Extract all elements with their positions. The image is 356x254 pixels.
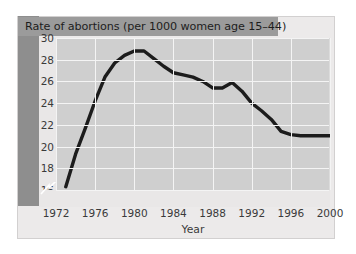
gridline-vertical bbox=[213, 38, 214, 190]
gridline-horizontal bbox=[56, 168, 329, 169]
gridline-horizontal bbox=[56, 81, 329, 82]
gridline-vertical bbox=[330, 38, 331, 190]
gridline-horizontal bbox=[56, 60, 329, 61]
x-tick-label: 2000 bbox=[317, 207, 344, 219]
x-tick-label: 1988 bbox=[199, 207, 226, 219]
gridline-horizontal bbox=[56, 38, 329, 39]
y-tick-label: 26 bbox=[41, 75, 54, 87]
gridline-horizontal bbox=[56, 103, 329, 104]
gridline-horizontal bbox=[56, 125, 329, 126]
x-axis-title: Year bbox=[56, 223, 330, 236]
plot-area bbox=[56, 38, 330, 190]
y-tick-label: 18 bbox=[41, 162, 54, 174]
gridline-horizontal bbox=[56, 190, 329, 191]
x-tick-label: 1992 bbox=[238, 207, 265, 219]
x-tick-label: 1984 bbox=[160, 207, 187, 219]
y-tick-label: 28 bbox=[41, 54, 54, 66]
chart-title: Rate of abortions (per 1000 women age 15… bbox=[18, 20, 286, 33]
gridline-vertical bbox=[134, 38, 135, 190]
x-tick-label: 1980 bbox=[121, 207, 148, 219]
x-tick-label: 1996 bbox=[277, 207, 304, 219]
chart-title-band: Rate of abortions (per 1000 women age 15… bbox=[18, 17, 278, 36]
gridline-vertical bbox=[95, 38, 96, 190]
y-tick-label: 22 bbox=[41, 119, 54, 131]
gridline-vertical bbox=[291, 38, 292, 190]
y-tick-label: 24 bbox=[41, 97, 54, 109]
y-tick-label: 30 bbox=[41, 32, 54, 44]
gridline-horizontal bbox=[56, 147, 329, 148]
x-tick-label: 1976 bbox=[82, 207, 109, 219]
x-axis-labels: 19721976198019841988199219962000 bbox=[39, 207, 330, 223]
gridline-vertical bbox=[56, 38, 57, 190]
y-axis-zero-strip bbox=[39, 190, 330, 207]
x-tick-label: 1972 bbox=[43, 207, 70, 219]
chart-figure: Rate of abortions (per 1000 women age 15… bbox=[0, 0, 356, 254]
y-tick-label: 20 bbox=[41, 141, 54, 153]
gridline-vertical bbox=[252, 38, 253, 190]
gridline-vertical bbox=[173, 38, 174, 190]
data-line bbox=[56, 38, 330, 190]
left-accent-band bbox=[18, 16, 39, 206]
